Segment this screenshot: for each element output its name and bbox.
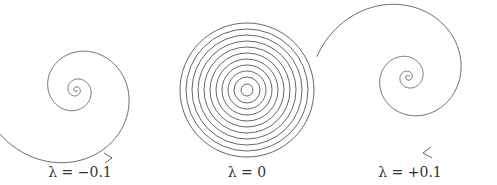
label-lambda-positive: λ = +0.1 xyxy=(378,164,442,180)
spiral-curve xyxy=(317,4,461,115)
stable-spiral-trajectory xyxy=(0,51,129,163)
spiral-curve xyxy=(0,51,129,162)
circle-orbit xyxy=(204,47,290,133)
concentric-circles xyxy=(180,23,314,157)
label-lambda-zero: λ = 0 xyxy=(228,164,266,180)
circle-orbit xyxy=(180,23,314,157)
circle-orbit xyxy=(241,84,253,96)
circle-orbit xyxy=(216,59,278,121)
circle-orbit xyxy=(222,65,272,115)
unstable-spiral-trajectory xyxy=(317,4,461,158)
label-lambda-negative: λ = −0.1 xyxy=(48,164,112,180)
arrow-icon xyxy=(423,147,432,158)
circle-orbit xyxy=(192,35,302,145)
circle-orbit xyxy=(210,53,284,127)
circle-orbit xyxy=(198,41,296,139)
phase-portraits xyxy=(0,0,497,185)
arrow-icon xyxy=(104,153,112,163)
circle-orbit xyxy=(234,77,260,103)
